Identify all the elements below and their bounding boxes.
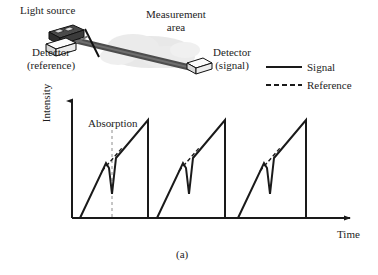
detector-signal-label: Detector (signal) xyxy=(199,46,265,71)
figure-container: Light source Measurement area Detector (… xyxy=(0,0,378,275)
figure-caption: (a) xyxy=(176,248,188,261)
absorption-annotation-label: Absorption xyxy=(88,117,138,130)
legend-label-signal: Signal xyxy=(307,61,335,73)
reference-segment-3 xyxy=(260,148,280,171)
measurement-area-label: Measurement area xyxy=(137,8,215,33)
signal-ramp-3 xyxy=(238,120,306,218)
light-source-label: Light source xyxy=(20,4,75,17)
legend xyxy=(266,67,302,85)
x-axis-label: Time xyxy=(337,228,360,241)
reference-segment-2 xyxy=(179,148,199,171)
signal-ramp-2 xyxy=(157,120,225,218)
legend-label-reference: Reference xyxy=(307,79,352,91)
intensity-time-chart xyxy=(0,95,378,245)
y-axis-label: Intensity xyxy=(40,68,53,138)
signal-ramp-1 xyxy=(80,120,148,218)
